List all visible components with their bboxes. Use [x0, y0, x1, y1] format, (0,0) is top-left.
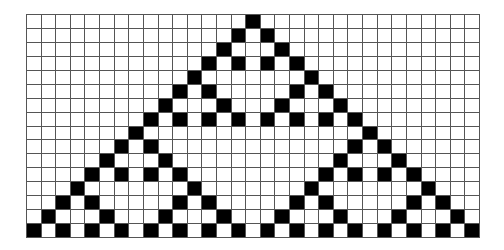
cell-off	[129, 210, 144, 224]
cell-off	[422, 140, 437, 154]
cell-off	[436, 113, 451, 127]
cell-off	[27, 85, 42, 99]
cell-off	[407, 127, 422, 141]
cell-off	[42, 196, 57, 210]
cell-on	[261, 29, 276, 43]
cell-off	[465, 85, 480, 99]
cell-off	[407, 182, 422, 196]
cell-off	[232, 154, 247, 168]
cell-off	[115, 210, 130, 224]
cell-off	[217, 127, 232, 141]
cell-off	[100, 85, 115, 99]
cell-on	[217, 99, 232, 113]
cell-off	[159, 224, 174, 238]
cell-off	[348, 15, 363, 29]
cell-off	[159, 57, 174, 71]
cell-off	[188, 43, 203, 57]
cell-off	[275, 224, 290, 238]
cell-off	[378, 113, 393, 127]
cell-off	[115, 85, 130, 99]
cell-on	[246, 15, 261, 29]
cell-off	[159, 113, 174, 127]
cell-off	[305, 196, 320, 210]
cell-off	[319, 140, 334, 154]
cell-on	[129, 127, 144, 141]
cell-off	[129, 224, 144, 238]
cell-off	[334, 168, 349, 182]
cell-off	[100, 127, 115, 141]
cell-off	[275, 182, 290, 196]
cell-off	[436, 140, 451, 154]
cell-off	[465, 15, 480, 29]
cell-on	[436, 224, 451, 238]
cell-on	[85, 168, 100, 182]
cell-off	[71, 71, 86, 85]
cell-off	[465, 140, 480, 154]
cell-off	[202, 71, 217, 85]
cell-off	[202, 154, 217, 168]
cell-off	[422, 168, 437, 182]
cell-off	[71, 15, 86, 29]
cell-off	[144, 196, 159, 210]
cell-off	[436, 85, 451, 99]
cell-off	[334, 43, 349, 57]
cell-off	[348, 57, 363, 71]
cell-on	[56, 224, 71, 238]
cell-off	[173, 127, 188, 141]
cell-on	[217, 210, 232, 224]
cell-off	[275, 154, 290, 168]
cell-off	[290, 140, 305, 154]
cell-off	[407, 140, 422, 154]
cell-off	[305, 15, 320, 29]
cell-off	[56, 168, 71, 182]
cell-off	[129, 57, 144, 71]
cell-on	[363, 127, 378, 141]
cell-off	[392, 29, 407, 43]
cell-off	[42, 224, 57, 238]
cell-off	[305, 113, 320, 127]
cell-off	[71, 127, 86, 141]
cell-off	[42, 71, 57, 85]
cell-off	[319, 15, 334, 29]
cell-off	[363, 154, 378, 168]
cell-off	[465, 168, 480, 182]
cell-off	[217, 182, 232, 196]
cell-off	[465, 29, 480, 43]
cell-off	[290, 210, 305, 224]
cell-off	[422, 127, 437, 141]
cell-off	[71, 210, 86, 224]
cell-off	[115, 99, 130, 113]
cell-off	[56, 210, 71, 224]
cell-off	[159, 182, 174, 196]
cell-off	[129, 85, 144, 99]
cell-off	[290, 182, 305, 196]
cell-off	[451, 57, 466, 71]
cell-off	[407, 154, 422, 168]
cell-off	[202, 168, 217, 182]
cell-off	[436, 210, 451, 224]
cell-off	[392, 113, 407, 127]
cell-off	[100, 113, 115, 127]
cell-off	[129, 71, 144, 85]
cell-off	[378, 29, 393, 43]
cell-off	[100, 99, 115, 113]
cell-off	[115, 182, 130, 196]
cell-off	[392, 43, 407, 57]
cell-off	[334, 85, 349, 99]
cell-off	[451, 29, 466, 43]
cell-off	[159, 168, 174, 182]
cell-off	[85, 71, 100, 85]
cell-off	[100, 29, 115, 43]
cell-off	[465, 71, 480, 85]
cell-off	[202, 29, 217, 43]
cell-off	[202, 140, 217, 154]
cell-off	[436, 29, 451, 43]
cell-on	[159, 154, 174, 168]
cell-off	[392, 168, 407, 182]
cell-off	[246, 168, 261, 182]
cell-off	[290, 154, 305, 168]
cell-off	[378, 57, 393, 71]
cell-off	[319, 210, 334, 224]
cell-off	[56, 154, 71, 168]
cell-off	[319, 182, 334, 196]
